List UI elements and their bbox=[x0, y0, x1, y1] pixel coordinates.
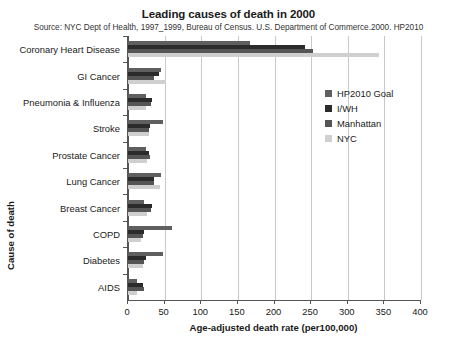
y-axis-labels: Coronary Heart DiseaseGI CancerPneumonia… bbox=[0, 36, 124, 300]
bar bbox=[128, 53, 379, 57]
x-tick-label-200: 200 bbox=[259, 306, 289, 317]
x-tick-label-150: 150 bbox=[222, 306, 252, 317]
bar-groups bbox=[128, 36, 421, 300]
bar bbox=[128, 185, 160, 189]
bar-group bbox=[128, 147, 421, 163]
x-tick-label-350: 350 bbox=[368, 306, 398, 317]
y-tick-label: Coronary Heart Disease bbox=[19, 44, 120, 55]
plot-area bbox=[127, 36, 421, 300]
legend-item: HP2010 Goal bbox=[325, 86, 393, 101]
y-tick-label: AIDS bbox=[98, 281, 120, 292]
gridline-400 bbox=[421, 36, 422, 300]
bar bbox=[128, 132, 149, 136]
chart-title: Leading causes of death in 2000 bbox=[0, 8, 457, 20]
x-tick-label-400: 400 bbox=[405, 306, 435, 317]
y-tick-label: Stroke bbox=[93, 123, 120, 134]
bar-group bbox=[128, 173, 421, 189]
legend-swatch-icon bbox=[325, 135, 332, 142]
y-tick-label: Lung Cancer bbox=[66, 176, 120, 187]
y-axis-title-wrap: Cause of death bbox=[0, 120, 72, 140]
legend-item: NYC bbox=[325, 131, 393, 146]
x-tick-mark bbox=[383, 300, 384, 304]
x-tick-mark bbox=[347, 300, 348, 304]
x-tick-label-50: 50 bbox=[149, 306, 179, 317]
y-tick-label: Prostate Cancer bbox=[52, 149, 120, 160]
legend-item: Manhattan bbox=[325, 116, 393, 131]
legend-label: Manhattan bbox=[337, 118, 381, 129]
x-tick-mark bbox=[274, 300, 275, 304]
legend-swatch-icon bbox=[325, 105, 332, 112]
x-axis-title: Age-adjusted death rate (per100,000) bbox=[127, 322, 420, 333]
x-tick-mark bbox=[200, 300, 201, 304]
bar-group bbox=[128, 41, 421, 57]
bar-group bbox=[128, 68, 421, 84]
x-tick-mark bbox=[127, 300, 128, 304]
y-axis-title: Cause of death bbox=[5, 176, 16, 296]
x-tick-mark bbox=[237, 300, 238, 304]
y-tick-label: Diabetes bbox=[83, 255, 120, 266]
legend-label: HP2010 Goal bbox=[337, 88, 393, 99]
chart-source-note: Source: NYC Dept of Health, 1997_1999, B… bbox=[0, 23, 457, 32]
bar-group bbox=[128, 226, 421, 242]
x-tick-label-100: 100 bbox=[185, 306, 215, 317]
bar bbox=[128, 80, 166, 84]
x-tick-label-0: 0 bbox=[112, 306, 142, 317]
bar-group bbox=[128, 279, 421, 295]
y-tick-label: Breast Cancer bbox=[60, 202, 120, 213]
x-tick-mark bbox=[310, 300, 311, 304]
x-tick-label-250: 250 bbox=[295, 306, 325, 317]
x-tick-mark bbox=[420, 300, 421, 304]
legend-item: I/WH bbox=[325, 101, 393, 116]
x-tick-label-300: 300 bbox=[332, 306, 362, 317]
chart-legend: HP2010 GoalI/WHManhattanNYC bbox=[325, 86, 393, 146]
legend-swatch-icon bbox=[325, 90, 332, 97]
x-tick-mark bbox=[164, 300, 165, 304]
chart-figure: Leading causes of death in 2000 Source: … bbox=[0, 0, 457, 347]
bar-group bbox=[128, 252, 421, 268]
bar-group bbox=[128, 200, 421, 216]
y-tick-label: COPD bbox=[93, 229, 120, 240]
legend-swatch-icon bbox=[325, 120, 332, 127]
y-tick-label: GI Cancer bbox=[77, 70, 120, 81]
legend-label: I/WH bbox=[337, 103, 358, 114]
y-tick-label: Pneumonia & Influenza bbox=[23, 97, 120, 108]
legend-label: NYC bbox=[337, 133, 357, 144]
